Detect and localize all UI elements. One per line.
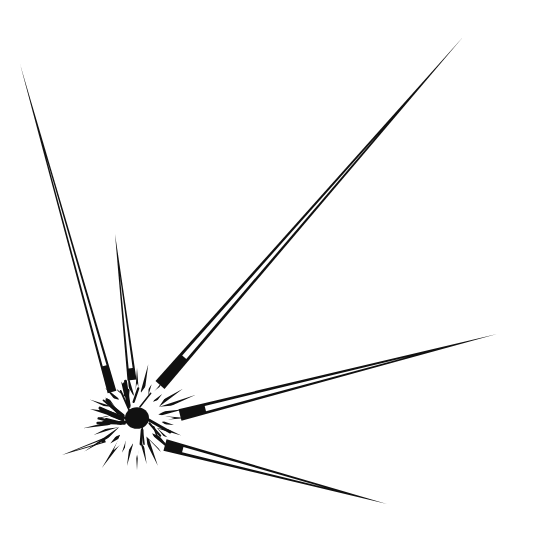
burst-ink-stroke <box>98 422 127 423</box>
burst-ink-stroke <box>141 430 142 444</box>
burst-center-dot <box>125 407 149 429</box>
spiky-burst-illustration <box>0 0 536 535</box>
background <box>0 0 536 535</box>
